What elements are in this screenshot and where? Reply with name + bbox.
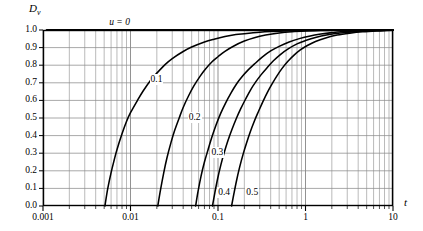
y-tick-label: 0.5 (0, 112, 37, 122)
curve-label: 0.1 (150, 74, 164, 85)
curve-label: 0.5 (245, 187, 259, 198)
x-tick-label: 1 (281, 212, 331, 222)
y-tick-label: 0.3 (0, 147, 37, 157)
y-tick-label: 0.0 (0, 200, 37, 210)
y-tick-label: 0.9 (0, 42, 37, 52)
curve-label: 0.4 (217, 187, 231, 198)
y-tick-label: 0.1 (0, 182, 37, 192)
y-tick-label: 0.4 (0, 130, 37, 140)
curve-label: 0.3 (210, 147, 224, 158)
x-tick-label: 0.1 (193, 212, 243, 222)
y-tick-label: 1.0 (0, 24, 37, 34)
y-tick-label: 0.2 (0, 165, 37, 175)
chart-figure: Dv t 0.00.10.20.30.40.50.60.70.80.91.00.… (0, 0, 423, 231)
x-tick-label: 0.001 (18, 212, 68, 222)
curve-label: u = 0 (108, 17, 131, 28)
x-tick-label: 10 (368, 212, 418, 222)
curve-label: 0.2 (188, 112, 202, 123)
y-tick-label: 0.8 (0, 59, 37, 69)
chart-plot-area (0, 0, 423, 231)
x-tick-label: 0.01 (106, 212, 156, 222)
y-tick-label: 0.6 (0, 94, 37, 104)
y-tick-label: 0.7 (0, 77, 37, 87)
